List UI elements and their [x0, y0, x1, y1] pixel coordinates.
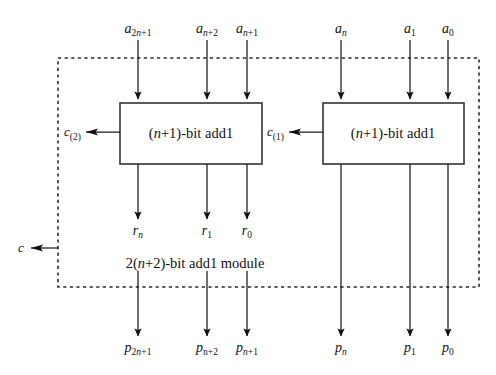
carry-label-c2: c(2): [64, 125, 81, 139]
input-wires-right: [341, 40, 448, 99]
figure-canvas: (n+1)-bit add1 (n+1)-bit add1 2(n+2)-bit…: [0, 0, 496, 375]
output-wires-left: [138, 271, 247, 336]
intermediate-label-r-1: r1: [202, 224, 212, 238]
intermediate-wires: [138, 164, 247, 219]
input-label-a-2n-1: a2n+1: [124, 22, 151, 36]
output-label-p-n-2: pn+2: [196, 341, 218, 355]
right-adder-label: (n+1)-bit add1: [351, 125, 435, 142]
output-label-p-n: pn: [335, 341, 347, 355]
output-label-p-2n-1: p2n+1: [124, 341, 151, 355]
output-label-p-n-1: pn+1: [236, 341, 258, 355]
intermediate-label-r-0: r0: [242, 224, 252, 238]
diagram-vector-layer: [0, 0, 496, 375]
input-label-a-n: an: [335, 22, 347, 36]
carry-label-c-out: c: [18, 241, 24, 255]
input-label-a-n-2: an+2: [196, 22, 218, 36]
output-wires-right: [341, 164, 448, 336]
input-label-a-n-1: an+1: [236, 22, 258, 36]
input-label-a-1: a1: [404, 22, 416, 36]
input-wires-left: [138, 40, 247, 99]
carry-label-c1: c(1): [267, 125, 284, 139]
module-caption: 2(n+2)-bit add1 module: [126, 255, 265, 272]
intermediate-label-r-n: rn: [133, 224, 143, 238]
left-adder-label: (n+1)-bit add1: [149, 125, 233, 142]
output-label-p-0: p0: [442, 341, 454, 355]
output-label-p-1: p1: [404, 341, 416, 355]
module-boundary: [58, 58, 479, 287]
input-label-a-0: a0: [442, 22, 454, 36]
